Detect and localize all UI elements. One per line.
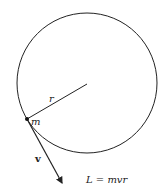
angular-momentum-diagram: r m v L = mvr <box>0 0 165 193</box>
equation-label: L = mvr <box>85 174 129 185</box>
mass-label: m <box>31 116 40 127</box>
radius-line <box>27 84 87 119</box>
velocity-vector <box>27 119 62 183</box>
mass-point <box>25 117 29 121</box>
velocity-label: v <box>34 153 42 164</box>
orbit-circle <box>17 13 157 153</box>
radius-label: r <box>49 93 55 104</box>
